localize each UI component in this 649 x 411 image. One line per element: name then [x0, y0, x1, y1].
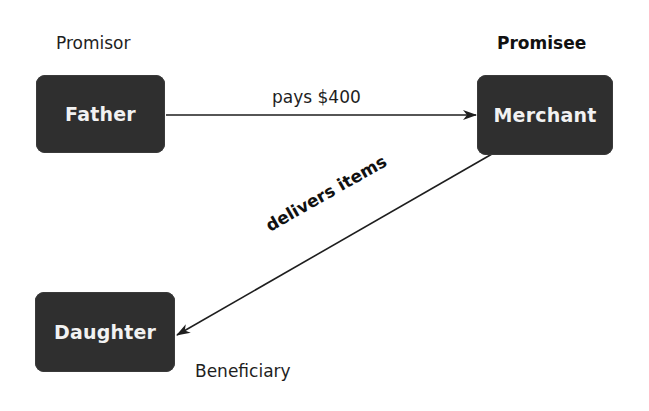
node-merchant-label: Merchant [494, 104, 597, 126]
promisor-label: Promisor [56, 33, 131, 53]
edge-label-pays: pays $400 [272, 87, 361, 107]
node-merchant: Merchant [477, 75, 613, 155]
node-father: Father [36, 75, 165, 153]
promisee-label: Promisee [497, 33, 586, 53]
node-father-label: Father [65, 103, 136, 125]
contract-diagram: Promisor Father Promisee Merchant Daught… [0, 0, 649, 411]
node-daughter: Daughter [35, 292, 175, 372]
node-daughter-label: Daughter [54, 321, 156, 343]
beneficiary-label: Beneficiary [195, 361, 291, 381]
